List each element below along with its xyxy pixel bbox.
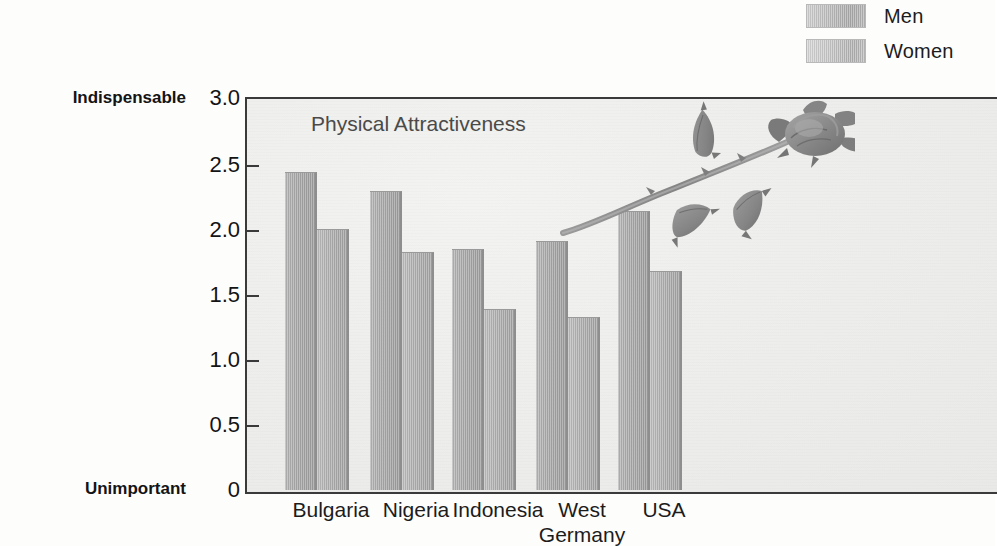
legend-label-men: Men [884, 5, 924, 28]
y-axis-bottom-caption: Unimportant [36, 479, 186, 499]
legend-item-women: Women [806, 37, 996, 65]
y-tick-mark-1-0 [245, 360, 259, 362]
y-tick-label-0-5: 0.5 [182, 412, 240, 438]
y-tick-label-1-5: 1.5 [182, 282, 240, 308]
chart-legend: Men Women [806, 2, 996, 72]
y-axis-top-caption: Indispensable [36, 88, 186, 108]
legend-label-women: Women [884, 40, 954, 63]
y-tick-label-1-0: 1.0 [182, 347, 240, 373]
y-tick-mark-3-0 [245, 97, 259, 99]
plot-title: Physical Attractiveness [311, 112, 526, 136]
x-axis-label-usa: USA [604, 497, 724, 522]
legend-swatch-women-icon [806, 39, 866, 63]
legend-swatch-men-icon [806, 4, 866, 28]
y-tick-mark-2-0 [245, 230, 259, 232]
y-tick-mark-0-5 [245, 425, 259, 427]
legend-item-men: Men [806, 2, 996, 30]
y-tick-label-0: 0 [182, 477, 240, 503]
y-tick-label-2-0: 2.0 [182, 217, 240, 243]
y-tick-mark-1-5 [245, 295, 259, 297]
y-tick-label-2-5: 2.5 [182, 152, 240, 178]
y-tick-mark-2-5 [245, 165, 259, 167]
y-tick-label-3-0: 3.0 [182, 85, 240, 111]
plot-area [245, 97, 997, 494]
